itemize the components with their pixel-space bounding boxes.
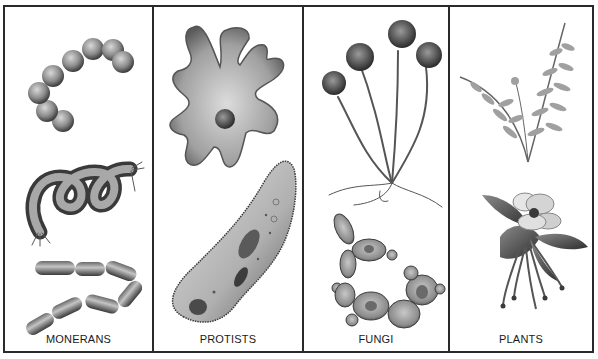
fungi-illustration <box>304 7 448 351</box>
yeast-cells-icon <box>330 211 445 328</box>
panel-plants: PLANTS <box>450 7 592 351</box>
bacilli-chain-icon <box>24 259 145 338</box>
bread-mold-icon <box>322 20 442 207</box>
panel-protists: PROTISTS <box>154 7 302 351</box>
panel-label-plants: PLANTS <box>450 333 592 345</box>
amoeba-icon <box>170 26 283 167</box>
panel-fungi: FUNGI <box>304 7 448 351</box>
fern-icon <box>460 23 576 162</box>
cocci-chain-icon <box>28 38 134 132</box>
monerans-illustration <box>5 7 152 351</box>
paramecium-icon <box>173 161 296 322</box>
kingdoms-diagram-frame: MONERANS <box>3 5 594 353</box>
panel-monerans: MONERANS <box>5 7 152 351</box>
columbine-flower-icon <box>482 193 588 309</box>
protists-illustration <box>154 7 302 351</box>
panel-label-fungi: FUNGI <box>304 333 448 345</box>
panel-label-monerans: MONERANS <box>5 333 152 345</box>
panel-label-protists: PROTISTS <box>154 333 302 345</box>
spirillum-icon <box>32 162 144 246</box>
plants-illustration <box>450 7 592 351</box>
